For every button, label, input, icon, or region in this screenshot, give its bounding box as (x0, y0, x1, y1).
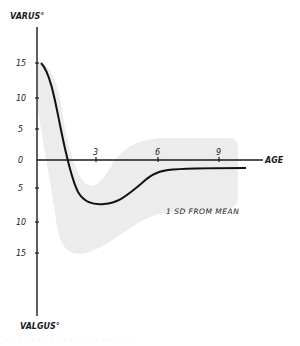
x-tick-6: 6 (155, 148, 160, 157)
y-tick-5-below: 5 (18, 184, 23, 193)
faint-caption: · · · · · · · · · · · · · · · · · · · · (6, 336, 132, 344)
x-tick-9: 9 (216, 148, 221, 157)
y-tick-5-above: 5 (18, 125, 23, 134)
y-label-bottom: VALGUS° (20, 322, 60, 331)
chart-canvas: VARUS° 15 10 5 0 5 10 15 3 6 9 AGE 1 SD … (0, 0, 300, 346)
y-tick-10-above: 10 (16, 94, 26, 103)
y-tick-15-above: 15 (16, 59, 26, 68)
y-tick-0: 0 (18, 156, 23, 165)
x-tick-3: 3 (93, 148, 98, 157)
y-tick-15-below: 15 (16, 249, 26, 258)
band-annotation: 1 SD FROM MEAN (166, 207, 239, 216)
x-axis-label: AGE (264, 156, 284, 165)
y-label-top: VARUS° (10, 12, 44, 21)
y-tick-10-below: 10 (16, 218, 26, 227)
